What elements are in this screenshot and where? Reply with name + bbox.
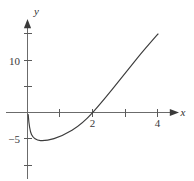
y-axis-label: y [33,5,39,17]
y-axis-arrow-icon [24,19,31,28]
x-tick-label-2: 2 [90,117,96,129]
x-tick-label-4: 4 [155,117,161,129]
y-tick-label-neg5: −5 [8,133,20,145]
x-axis-arrow-icon [170,109,179,116]
x-axis-label: x [180,106,186,118]
plot-canvas: y x 2 4 10 −5 [0,0,194,181]
y-tick-label-10: 10 [9,55,21,67]
chart-figure: y x 2 4 10 −5 [0,0,194,181]
